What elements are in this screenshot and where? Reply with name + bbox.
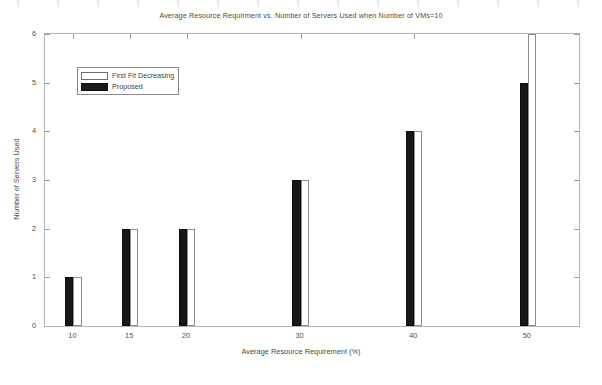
bar — [73, 277, 81, 326]
legend-label: First Fit Decreasing — [112, 71, 174, 80]
bar — [528, 34, 536, 326]
bar — [414, 131, 422, 326]
y-tick-mark — [45, 34, 50, 35]
x-tick-label: 10 — [68, 331, 76, 340]
x-tick-label: 30 — [296, 331, 304, 340]
y-tick-mark — [574, 180, 579, 181]
bar — [65, 277, 73, 326]
bar — [179, 229, 187, 326]
chart-figure: Average Resource Requirment vs. Number o… — [0, 0, 602, 385]
x-tick-mark — [301, 34, 302, 39]
x-tick-mark — [73, 34, 74, 39]
y-tick-mark — [45, 277, 50, 278]
y-tick-label: 4 — [32, 126, 36, 135]
legend-swatch-proposed — [81, 83, 108, 91]
bar — [406, 131, 414, 326]
y-tick-label: 1 — [32, 272, 36, 281]
y-tick-label: 0 — [32, 321, 36, 330]
x-tick-label: 50 — [523, 331, 531, 340]
y-tick-mark — [45, 180, 50, 181]
bar — [122, 229, 130, 326]
x-axis-label: Average Resource Requirement (%) — [0, 347, 602, 356]
y-tick-mark — [574, 131, 579, 132]
bar — [292, 180, 300, 326]
x-axis-tick-labels: 101520304050 — [44, 331, 578, 345]
legend-swatch-first-fit-decreasing — [81, 72, 108, 80]
y-tick-label: 2 — [32, 223, 36, 232]
chart-legend: First Fit Decreasing Proposed — [77, 67, 179, 95]
y-tick-label: 3 — [32, 175, 36, 184]
y-tick-mark — [45, 131, 50, 132]
bar — [187, 229, 195, 326]
y-tick-mark — [574, 34, 579, 35]
x-tick-mark — [414, 34, 415, 39]
legend-label: Proposed — [112, 82, 143, 91]
legend-item: First Fit Decreasing — [81, 71, 174, 80]
x-tick-mark — [130, 34, 131, 39]
x-tick-label: 20 — [182, 331, 190, 340]
y-tick-label: 5 — [32, 77, 36, 86]
y-tick-mark — [574, 277, 579, 278]
bar — [301, 180, 309, 326]
legend-item: Proposed — [81, 82, 174, 91]
x-tick-label: 40 — [409, 331, 417, 340]
bar — [520, 83, 528, 326]
y-tick-mark — [45, 229, 50, 230]
y-tick-label: 6 — [32, 29, 36, 38]
x-tick-mark — [187, 34, 188, 39]
bar — [130, 229, 138, 326]
x-tick-label: 15 — [125, 331, 133, 340]
y-tick-mark — [574, 83, 579, 84]
chart-title: Average Resource Requirment vs. Number o… — [0, 11, 602, 20]
y-tick-mark — [45, 83, 50, 84]
y-axis-label: Number of Servers Used — [12, 33, 24, 325]
y-tick-mark — [574, 229, 579, 230]
